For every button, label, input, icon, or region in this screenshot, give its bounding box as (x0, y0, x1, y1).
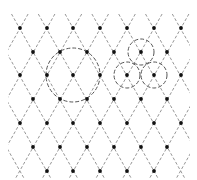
lattice-point (125, 121, 129, 125)
lattice-point (45, 121, 49, 125)
lattice-point (85, 97, 89, 101)
lattice-point (58, 145, 62, 149)
lattice-line (15, 14, 109, 180)
lattice-line (0, 14, 79, 180)
lattice-point (152, 73, 156, 77)
lattice-point (85, 145, 89, 149)
lattice-point (139, 97, 143, 101)
lattice-line (92, 14, 186, 180)
lattice-line (122, 14, 196, 180)
lattice-point (45, 73, 49, 77)
lattice-point (31, 97, 35, 101)
lattice-line (12, 14, 106, 180)
lattice-point (179, 121, 183, 125)
lattice-line (0, 14, 52, 180)
lattice-line (149, 14, 196, 180)
lattice-point (139, 145, 143, 149)
lattice-line (0, 14, 1, 180)
lattice-point (112, 50, 116, 54)
lattice-point (112, 145, 116, 149)
lattice-line (172, 14, 196, 180)
lattice-line (146, 14, 197, 180)
lattice-point (98, 169, 102, 173)
lattice-point (125, 169, 129, 173)
lattice-point (18, 26, 22, 30)
lattice-point (71, 73, 75, 77)
lattice-point (31, 50, 35, 54)
lattice-point (179, 73, 183, 77)
lattice-point (98, 26, 102, 30)
lattice-point (71, 169, 75, 173)
lattice-point (18, 121, 22, 125)
lattice-line (0, 14, 55, 180)
lattice-point (112, 97, 116, 101)
lattice-point (125, 73, 129, 77)
lattice-point (71, 121, 75, 125)
lattice-point (45, 169, 49, 173)
lattice-point (165, 50, 169, 54)
lattice-line (175, 14, 196, 180)
lattice-point (31, 145, 35, 149)
lattice-point (139, 50, 143, 54)
lattice-point (71, 26, 75, 30)
lattice-point (152, 121, 156, 125)
lattice-point (18, 73, 22, 77)
lattice-lines (0, 14, 196, 180)
lattice-point (152, 26, 156, 30)
lattice-points (18, 26, 183, 173)
lattice-diagram (0, 0, 196, 180)
lattice-line (65, 14, 159, 180)
lattice-line (0, 14, 25, 180)
lattice-point (98, 73, 102, 77)
lattice-line (0, 14, 82, 180)
lattice-point (152, 169, 156, 173)
lattice-point (58, 50, 62, 54)
lattice-point (165, 145, 169, 149)
lattice-line (38, 14, 132, 180)
lattice-line (119, 14, 196, 180)
lattice-point (165, 97, 169, 101)
lattice-point (179, 26, 183, 30)
lattice-point (98, 121, 102, 125)
lattice-line (0, 14, 28, 180)
lattice-point (58, 97, 62, 101)
lattice-point (85, 50, 89, 54)
lattice-line (68, 14, 162, 180)
lattice-point (45, 26, 49, 30)
lattice-point (125, 26, 129, 30)
lattice-svg (0, 0, 196, 180)
